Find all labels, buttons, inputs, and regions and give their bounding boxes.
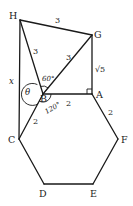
right-angle-marker bbox=[87, 89, 92, 94]
vertex-label-b: B bbox=[40, 93, 47, 104]
length-label-bc: 2 bbox=[33, 117, 38, 126]
length-label-hc: x bbox=[9, 76, 14, 86]
edge-bg bbox=[43, 35, 92, 94]
edge-ef bbox=[93, 139, 118, 184]
vertex-label-g: G bbox=[94, 29, 102, 40]
length-label-ga: √5 bbox=[95, 65, 105, 74]
angle-label-theta: θ bbox=[25, 87, 30, 97]
vertex-label-f: F bbox=[121, 134, 128, 145]
vertex-label-e: E bbox=[90, 188, 97, 199]
geometry-diagram: H G A B C D E F 3 3 3 √5 2 2 2 x θ 60° 1… bbox=[0, 0, 133, 206]
length-label-af: 2 bbox=[108, 108, 113, 117]
upper-figure bbox=[19, 20, 92, 139]
length-label-ba: 2 bbox=[66, 99, 71, 108]
vertex-label-d: D bbox=[39, 188, 47, 199]
vertex-label-h: H bbox=[9, 10, 17, 21]
angle-60-arc bbox=[41, 86, 49, 88]
vertex-label-a: A bbox=[95, 89, 103, 100]
edge-fa bbox=[92, 94, 118, 139]
edge-cd bbox=[19, 139, 44, 184]
edge-hc bbox=[19, 20, 20, 139]
length-label-hb: 3 bbox=[33, 47, 38, 56]
angle-label-60: 60° bbox=[42, 75, 54, 83]
vertex-label-c: C bbox=[8, 134, 15, 145]
length-label-hg: 3 bbox=[55, 16, 60, 25]
length-label-bg: 3 bbox=[66, 53, 71, 62]
